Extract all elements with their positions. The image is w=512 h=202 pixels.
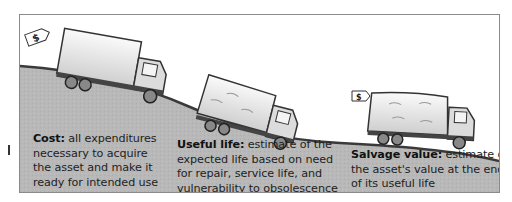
term-useful-life: Useful life: <box>177 138 244 151</box>
caption-cost: Cost: all expenditures necessary to acqu… <box>33 132 193 190</box>
desc-useful-life-line3: for repair, service life, and <box>177 167 322 180</box>
desc-cost-line3: the asset and make it <box>33 161 153 174</box>
margin-mark <box>8 145 10 155</box>
desc-salvage-line2: the asset's value at the end <box>351 163 500 176</box>
caption-salvage-value: Salvage value: estimate of the asset's v… <box>351 148 500 192</box>
depreciation-factors-figure: $ $ Cost: all <box>19 14 500 193</box>
term-cost: Cost: <box>33 132 65 145</box>
price-tag-icon: $ <box>352 91 370 102</box>
desc-cost-line1: all expenditures <box>68 132 156 145</box>
price-tag-icon: $ <box>25 27 52 46</box>
desc-cost-line2: necessary to acquire <box>33 147 148 160</box>
truck-salvage-icon <box>367 91 476 149</box>
caption-useful-life: Useful life: estimate of the expected li… <box>177 138 367 193</box>
desc-useful-life-line2: expected life based on need <box>177 153 333 166</box>
term-salvage-value: Salvage value: <box>351 148 442 161</box>
desc-salvage-line1: estimate of <box>446 148 500 161</box>
svg-text:$: $ <box>356 93 362 102</box>
desc-cost-line4: ready for intended use <box>33 176 158 189</box>
desc-salvage-line3: of its useful life <box>351 177 435 190</box>
desc-useful-life-line4: vulnerability to obsolescence <box>177 182 338 194</box>
desc-useful-life-line1: estimate of the <box>248 138 332 151</box>
